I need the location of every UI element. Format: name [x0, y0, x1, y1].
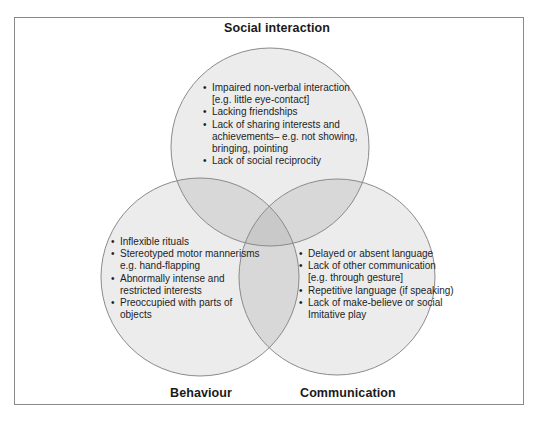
behaviour-list: Inflexible ritualsStereotyped motor mann… — [111, 236, 260, 321]
communication-item-line: Repetitive language (if speaking) — [308, 285, 454, 297]
behaviour-item-line: Inflexible rituals — [120, 236, 260, 248]
social-item-line: bringing, pointing — [212, 143, 358, 155]
social-interaction-list: Impaired non-verbal interaction[e.g. lit… — [203, 82, 358, 167]
communication-item: Delayed or absent language — [299, 248, 454, 260]
communication-item: Lack of make-believe or socialImitative … — [299, 297, 454, 321]
behaviour-item: Inflexible rituals — [111, 236, 260, 248]
social-item: Lack of sharing interests andachievement… — [203, 119, 358, 156]
social-item-line: Impaired non-verbal interaction — [212, 82, 358, 94]
communication-item: Lack of other communication[e.g. through… — [299, 260, 454, 284]
behaviour-item: Abnormally intense andrestricted interes… — [111, 273, 260, 297]
behaviour-item-line: objects — [120, 309, 260, 321]
social-item-line: achievements– e.g. not showing, — [212, 131, 358, 143]
communication-item-line: Lack of other communication — [308, 260, 454, 272]
communication-item-line: Imitative play — [308, 309, 454, 321]
communication-label: Communication — [300, 386, 396, 400]
social-item-line: Lack of sharing interests and — [212, 119, 358, 131]
communication-item: Repetitive language (if speaking) — [299, 285, 454, 297]
behaviour-item-line: Stereotyped motor mannerisms — [120, 248, 260, 260]
behaviour-item: Stereotyped motor mannerismse.g. hand-fl… — [111, 248, 260, 272]
behaviour-item-line: e.g. hand-flapping — [120, 260, 260, 272]
social-item-line: Lacking friendships — [212, 106, 358, 118]
behaviour-label: Behaviour — [170, 386, 232, 400]
social-item: Lack of social reciprocity — [203, 155, 358, 167]
communication-list: Delayed or absent languageLack of other … — [299, 248, 454, 321]
behaviour-item-line: Preoccupied with parts of — [120, 297, 260, 309]
venn-diagram — [0, 0, 539, 421]
social-item-line: [e.g. little eye-contact] — [212, 94, 358, 106]
communication-item-line: [e.g. through gesture] — [308, 272, 454, 284]
behaviour-item: Preoccupied with parts ofobjects — [111, 297, 260, 321]
social-item: Lacking friendships — [203, 106, 358, 118]
communication-item-line: Delayed or absent language — [308, 248, 454, 260]
behaviour-item-line: restricted interests — [120, 285, 260, 297]
communication-item-line: Lack of make-believe or social — [308, 297, 454, 309]
social-item: Impaired non-verbal interaction[e.g. lit… — [203, 82, 358, 106]
social-item-line: Lack of social reciprocity — [212, 155, 358, 167]
social-interaction-label: Social interaction — [224, 21, 330, 35]
behaviour-item-line: Abnormally intense and — [120, 273, 260, 285]
